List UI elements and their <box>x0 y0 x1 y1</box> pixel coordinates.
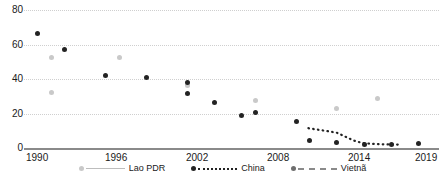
legend-label-vietna: Vietnã <box>341 163 366 173</box>
x-tick-2008: 2008 <box>267 152 289 163</box>
data-point <box>144 75 149 80</box>
x-axis-baseline <box>24 148 439 150</box>
data-point <box>362 142 367 147</box>
x-tick-1996: 1996 <box>105 152 127 163</box>
data-point <box>239 113 244 118</box>
legend-item-china[interactable]: China <box>191 163 265 173</box>
x-tick-2014: 2014 <box>348 152 370 163</box>
x-tick-1990: 1990 <box>26 152 48 163</box>
x-tick-2019: 2019 <box>415 152 437 163</box>
legend-swatch-lao-icon <box>79 165 125 172</box>
data-point <box>212 100 217 105</box>
y-tick-20: 20 <box>1 109 23 119</box>
legend-item-vietna[interactable]: Vietnã <box>291 163 366 173</box>
data-point <box>185 91 190 96</box>
data-point <box>253 110 258 115</box>
china-trend-line <box>24 10 439 148</box>
legend-swatch-china-icon <box>191 165 237 172</box>
chart-legend: Lao PDR China Vietnã <box>0 163 445 173</box>
legend-label-china: China <box>241 163 265 173</box>
data-point <box>185 80 190 85</box>
y-tick-80: 80 <box>1 5 23 15</box>
data-point <box>294 119 299 124</box>
data-point <box>117 55 122 60</box>
x-tick-2002: 2002 <box>186 152 208 163</box>
data-point <box>389 142 394 147</box>
data-point <box>35 31 40 36</box>
y-tick-60: 60 <box>1 40 23 50</box>
legend-label-lao-pdr: Lao PDR <box>129 163 166 173</box>
data-point <box>307 138 312 143</box>
legend-item-lao-pdr[interactable]: Lao PDR <box>79 163 166 173</box>
data-point <box>253 98 258 103</box>
y-tick-0: 0 <box>1 143 23 153</box>
plot-area <box>24 10 439 148</box>
data-point <box>49 55 54 60</box>
scatter-chart: 80 60 40 20 0 1990 1996 2002 2008 2014 2… <box>0 0 445 187</box>
legend-swatch-vietna-icon <box>291 165 337 172</box>
y-tick-40: 40 <box>1 74 23 84</box>
